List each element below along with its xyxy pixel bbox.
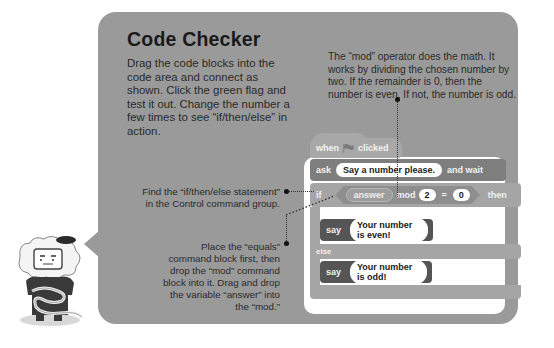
equals-sign: = (442, 190, 447, 200)
else-section: else (310, 244, 521, 259)
ask-suffix: and wait (447, 165, 483, 175)
if-annotation: Find the “if/then/else statement” in the… (140, 186, 280, 210)
say-odd-message-input[interactable]: Your number is odd! (350, 260, 427, 284)
ask-prompt-input[interactable]: Say a number please. (336, 163, 442, 177)
say-keyword: say (326, 267, 341, 277)
hat-when-label: when (316, 143, 339, 153)
if-then-else-block[interactable]: if answer mod 2 = 0 then (310, 183, 521, 207)
mascot-character-icon (12, 235, 87, 330)
equals-operator-block[interactable]: answer mod 2 = 0 (336, 186, 480, 204)
equals-leader-line-v (286, 214, 287, 241)
else-keyword: else (316, 247, 332, 256)
target-input[interactable]: 0 (453, 189, 470, 201)
say-even-message-input[interactable]: Your number is even! (350, 218, 428, 242)
equals-annotation: Place the “equals” command block first, … (160, 241, 280, 313)
intro-text: Drag the code blocks into the code area … (127, 57, 295, 139)
mod-leader-line (397, 102, 398, 197)
panel-title: Code Checker (127, 28, 261, 51)
equals-leader-dot (284, 241, 289, 246)
if-block-end (310, 285, 521, 299)
ask-keyword: ask (316, 165, 331, 175)
say-keyword: say (326, 225, 341, 235)
equals-leader-line-diag (286, 195, 336, 217)
when-flag-clicked-block[interactable]: when clicked (310, 138, 402, 158)
mod-annotation: The “mod” operator does the math. It wor… (328, 51, 518, 101)
answer-variable[interactable]: answer (346, 188, 393, 202)
mod-operator-label: mod (397, 190, 416, 200)
hat-clicked-label: clicked (358, 143, 389, 153)
say-odd-block[interactable]: say Your number is odd! (320, 261, 432, 283)
green-flag-icon (343, 144, 354, 153)
divisor-input[interactable]: 2 (419, 189, 436, 201)
then-keyword: then (488, 190, 507, 200)
say-even-block[interactable]: say Your number is even! (320, 219, 433, 241)
if-leader-line (289, 191, 314, 192)
ask-and-wait-block[interactable]: ask Say a number please. and wait (310, 159, 506, 181)
